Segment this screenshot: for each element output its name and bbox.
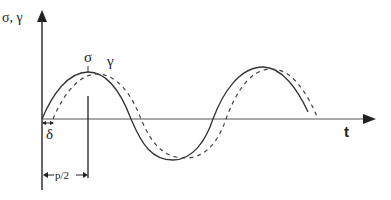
gamma-curve <box>53 69 318 158</box>
delta-label: δ <box>46 126 53 142</box>
half-period-arrow-right-icon <box>83 172 88 178</box>
y-axis-arrowhead-icon <box>37 10 47 22</box>
half-period-label: p/2 <box>55 169 69 181</box>
x-axis-arrowhead-icon <box>363 114 376 124</box>
gamma-curve-label: γ <box>106 53 114 69</box>
x-axis-label: t <box>344 123 349 140</box>
sigma-curve-label: σ <box>84 49 92 65</box>
stress-strain-diagram: σ γ σ, γ t δ p/2 <box>0 0 391 200</box>
sigma-curve <box>42 67 308 160</box>
delta-arrow-right-icon <box>50 121 54 125</box>
half-period-arrow-left-icon <box>43 172 48 178</box>
y-axis-label: σ, γ <box>2 10 23 25</box>
